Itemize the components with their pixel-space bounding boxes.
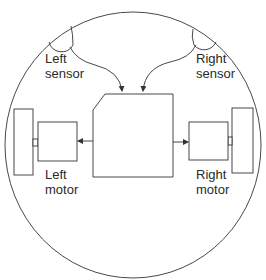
right-sensor-label-line1: Right — [196, 52, 235, 65]
left-sensor-label: Left sensor — [45, 52, 84, 80]
left-motor — [38, 122, 77, 161]
right-sensor-icon — [192, 29, 216, 50]
left-shaft — [33, 139, 38, 146]
left-sensor-label-line2: sensor — [45, 67, 84, 80]
vehicle-diagram — [0, 0, 266, 280]
right-motor — [189, 122, 228, 160]
right-motor-label-line2: motor — [196, 183, 229, 196]
right-wheel — [232, 108, 253, 173]
controller-box — [93, 94, 173, 177]
right-sensor-label: Right sensor — [196, 52, 235, 80]
right-motor-label: Right motor — [196, 168, 229, 196]
left-motor-label-line2: motor — [45, 183, 78, 196]
left-motor-label-line1: Left — [45, 168, 78, 181]
right-shaft — [228, 137, 232, 145]
left-sensor-label-line1: Left — [45, 52, 84, 65]
right-sensor-connector — [143, 45, 196, 91]
left-motor-label: Left motor — [45, 168, 78, 196]
right-motor-label-line1: Right — [196, 168, 229, 181]
left-wheel — [14, 109, 33, 175]
right-sensor-label-line2: sensor — [196, 67, 235, 80]
